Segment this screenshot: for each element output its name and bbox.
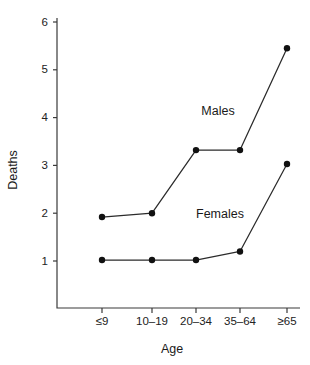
x-tick-label: ≥65 (277, 315, 296, 327)
x-tick-label: 20–34 (180, 315, 213, 327)
series-label-males: Males (201, 104, 234, 118)
data-point-marker (99, 257, 105, 263)
data-point-marker (284, 161, 290, 167)
x-tick-label: 10–19 (136, 315, 168, 327)
data-point-marker (99, 214, 105, 220)
y-tick-label: 3 (42, 159, 48, 171)
y-tick-label: 6 (42, 16, 48, 28)
data-point-marker (237, 248, 243, 254)
data-point-marker (193, 147, 199, 153)
chart-canvas: 123456 ≤910–1920–3435–64≥65 Males Female… (0, 0, 310, 365)
data-point-marker (237, 147, 243, 153)
line-chart: 123456 ≤910–1920–3435–64≥65 Males Female… (0, 0, 310, 365)
x-tick-label: ≤9 (96, 315, 109, 327)
y-axis-title: Deaths (6, 150, 20, 190)
y-tick-label: 2 (42, 207, 48, 219)
chart-background (0, 0, 310, 365)
x-tick-label: 35–64 (224, 315, 257, 327)
x-axis-title: Age (161, 342, 183, 356)
y-tick-label: 5 (42, 63, 48, 75)
data-point-marker (149, 257, 155, 263)
data-point-marker (284, 45, 290, 51)
data-point-marker (193, 257, 199, 263)
series-label-females: Females (196, 207, 244, 221)
y-tick-label: 4 (42, 111, 49, 123)
data-point-marker (149, 210, 155, 216)
y-tick-label: 1 (42, 255, 48, 267)
